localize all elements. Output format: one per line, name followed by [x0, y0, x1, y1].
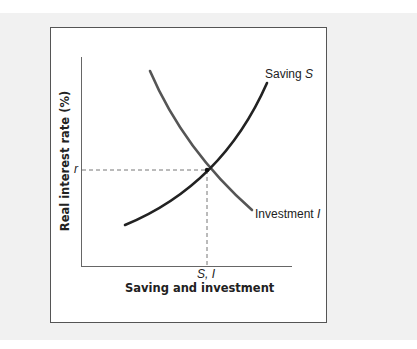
saving-label-text: Saving: [265, 67, 305, 81]
equilibrium-point: [205, 168, 209, 172]
investment-symbol: I: [317, 207, 320, 221]
investment-label-text: Investment: [255, 207, 317, 221]
y-axis-title: Real interest rate (%): [58, 91, 72, 231]
investment-curve: [150, 71, 252, 210]
saving-curve-label: Saving S: [265, 67, 313, 81]
saving-symbol: S: [305, 67, 313, 81]
x-tick-si: S, I: [197, 267, 215, 281]
y-tick-r: r: [74, 162, 78, 176]
investment-curve-label: Investment I: [255, 207, 320, 221]
x-axis-title: Saving and investment: [125, 281, 274, 295]
